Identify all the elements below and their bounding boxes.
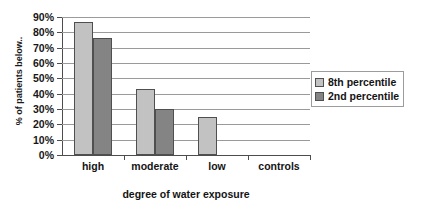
bar [155, 109, 174, 155]
y-axis-tick-label: 90% [33, 12, 54, 23]
x-axis-tick-label: low [208, 160, 226, 172]
legend-swatch-icon [315, 78, 324, 87]
y-axis-tick-label: 80% [33, 27, 54, 38]
y-axis-tick-label: 20% [33, 119, 54, 130]
y-axis-tick-label: 60% [33, 58, 54, 69]
legend-swatch-icon [315, 92, 324, 101]
legend-item: 2nd percentile [315, 89, 399, 103]
bar-chart: % of patients below.. 0%10%20%30%40%50%6… [0, 0, 427, 209]
y-axis-tick-label: 50% [33, 73, 54, 84]
x-axis-tick [124, 155, 125, 160]
x-axis-tick-label: moderate [131, 160, 178, 172]
y-axis-tick [57, 155, 62, 156]
bar [198, 117, 217, 155]
legend: 8th percentile 2nd percentile [311, 71, 404, 107]
x-axis-tick [248, 155, 249, 160]
bar [74, 22, 93, 155]
x-axis-tick-label: controls [258, 160, 299, 172]
y-axis-tick-label: 40% [33, 88, 54, 99]
x-axis-title: degree of water exposure [62, 188, 310, 200]
bar-group [62, 17, 124, 155]
bar-group [186, 17, 248, 155]
bar-group [124, 17, 186, 155]
y-axis-tick-label: 10% [33, 134, 54, 145]
bar [93, 38, 112, 155]
y-axis-tick-label: 0% [39, 150, 54, 161]
x-axis-tick [186, 155, 187, 160]
legend-item: 8th percentile [315, 75, 399, 89]
x-axis-tick-label: high [82, 160, 104, 172]
y-axis-tick-label: 70% [33, 42, 54, 53]
y-axis-title: % of patients below.. [14, 6, 24, 156]
plot-area: 0%10%20%30%40%50%60%70%80%90% highmodera… [62, 17, 310, 155]
bar [136, 89, 155, 155]
bar-group [248, 17, 310, 155]
x-axis-tick [310, 155, 311, 160]
legend-label: 2nd percentile [328, 91, 399, 102]
legend-label: 8th percentile [328, 77, 396, 88]
y-axis-tick-label: 30% [33, 104, 54, 115]
